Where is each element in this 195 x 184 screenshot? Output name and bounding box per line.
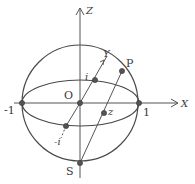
y-axis-back-line (66, 103, 80, 126)
point-one (136, 100, 141, 105)
label-z: z (107, 106, 114, 117)
riemann-sphere-diagram: Z X Y O -1 1 i -i P z S (0, 0, 195, 184)
label-x-axis: X (180, 98, 189, 109)
point-s (77, 160, 82, 165)
label-s: S (66, 165, 74, 178)
label-minus-one: -1 (4, 104, 15, 117)
point-z (101, 110, 106, 115)
point-minus-one (19, 100, 24, 105)
point-minus-i (63, 123, 68, 128)
point-i (92, 77, 97, 82)
label-origin: O (64, 89, 73, 102)
point-p (119, 68, 124, 73)
label-p: P (126, 57, 134, 70)
point-origin (77, 100, 82, 105)
label-i: i (85, 71, 88, 82)
label-minus-i: -i (54, 136, 61, 147)
label-z-axis: Z (85, 5, 94, 16)
label-one: 1 (143, 106, 150, 119)
